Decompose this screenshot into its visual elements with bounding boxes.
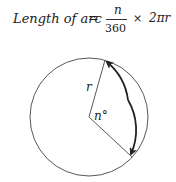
angle-label: n° <box>94 109 108 123</box>
arc-arrow-lower <box>128 100 136 154</box>
radius-label: r <box>86 80 92 94</box>
arc-arrow-upper <box>107 62 128 100</box>
radius-lower <box>89 117 132 157</box>
